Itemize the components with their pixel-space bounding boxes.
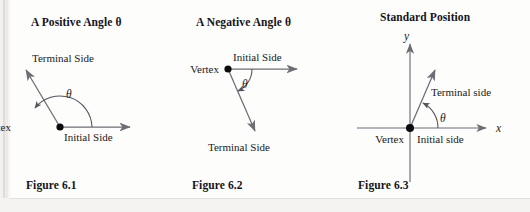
figure-6-1-diagram: Terminal Side Initial Side Vertex θ xyxy=(0,40,180,170)
figure-6-1-vertex-label: Vertex xyxy=(0,121,11,133)
figure-6-3-origin-dot xyxy=(406,124,414,132)
figure-6-2-title: A Negative Angle θ xyxy=(196,16,291,28)
figure-6-3-diagram: x y Terminal side Initial side Vertex θ xyxy=(350,26,530,186)
scan-bottom-rule-artifact xyxy=(10,198,530,199)
figure-6-1-initial-side-label: Initial Side xyxy=(64,131,113,143)
figure-6-1-terminal-side-label: Terminal Side xyxy=(32,52,94,64)
figure-6-1-angle-arc xyxy=(35,96,92,127)
figure-6-3-title: Standard Position xyxy=(380,11,470,23)
figure-6-1-theta-label: θ xyxy=(66,88,72,100)
figure-6-1-caption: Figure 6.1 xyxy=(26,179,77,191)
figure-page: A Positive Angle θ Terminal Side Initial… xyxy=(0,0,530,212)
figure-6-2-terminal-side-label: Terminal Side xyxy=(208,141,270,153)
figure-6-2-initial-side-label: Initial Side xyxy=(233,51,282,63)
figure-6-3-y-axis-label: y xyxy=(403,30,410,43)
figure-6-2-theta-label: θ xyxy=(242,78,248,90)
figure-6-1-vertex-dot xyxy=(56,123,63,130)
figure-6-2-diagram: Initial Side Terminal Side Vertex θ xyxy=(170,40,350,170)
figure-6-3-terminal-side-label: Terminal side xyxy=(431,86,491,98)
figure-6-3-caption: Figure 6.3 xyxy=(358,179,409,191)
figure-6-3-angle-arc xyxy=(423,103,438,128)
figure-6-3-vertex-label: Vertex xyxy=(375,133,404,145)
figure-6-3-x-axis-label: x xyxy=(495,122,502,134)
figure-6-1-title: A Positive Angle θ xyxy=(31,16,122,28)
figure-6-2-vertex-dot xyxy=(224,65,231,72)
figure-6-2-vertex-label: Vertex xyxy=(190,63,219,75)
figure-6-3-theta-label: θ xyxy=(440,112,446,124)
scan-bottom-artifact xyxy=(0,198,530,212)
figure-6-1-terminal-side-ray xyxy=(26,70,60,127)
figure-6-3-terminal-side-ray xyxy=(410,70,435,128)
figure-6-2-caption: Figure 6.2 xyxy=(192,179,243,191)
figure-6-3-initial-side-label: Initial side xyxy=(417,133,464,145)
